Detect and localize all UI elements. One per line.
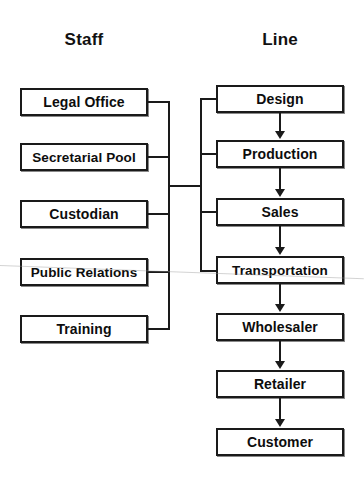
org-chart-diagram: Staff Line Legal Office Secretarial Pool… bbox=[0, 0, 364, 487]
arrow-icon-transportation-wholesaler bbox=[275, 304, 285, 312]
arrow-icon-design-production bbox=[275, 131, 285, 139]
arrow-icon-retailer-customer bbox=[275, 419, 285, 427]
node-wholesaler[interactable]: Wholesaler bbox=[216, 313, 344, 341]
flow-line-sales-transportation bbox=[279, 226, 281, 247]
connector-training-stub bbox=[148, 328, 170, 330]
flow-line-transportation-wholesaler bbox=[279, 284, 281, 305]
node-retailer[interactable]: Retailer bbox=[216, 370, 344, 398]
node-customer[interactable]: Customer bbox=[216, 428, 344, 456]
node-legal-office[interactable]: Legal Office bbox=[20, 88, 148, 116]
node-custodian[interactable]: Custodian bbox=[20, 200, 148, 228]
connector-design-stub bbox=[200, 98, 218, 100]
connector-staff-trunk bbox=[168, 101, 170, 330]
node-design[interactable]: Design bbox=[216, 85, 344, 113]
arrow-icon-sales-transportation bbox=[275, 247, 285, 255]
node-public-relations[interactable]: Public Relations bbox=[20, 258, 148, 286]
flow-line-production-sales bbox=[279, 168, 281, 189]
connector-transportation-stub bbox=[200, 270, 218, 272]
connector-sales-stub bbox=[200, 211, 218, 213]
node-training[interactable]: Training bbox=[20, 315, 148, 343]
flow-line-wholesaler-retailer bbox=[279, 341, 281, 362]
column-header-line: Line bbox=[218, 30, 342, 50]
node-production[interactable]: Production bbox=[216, 140, 344, 168]
connector-secretarial-pool-stub bbox=[148, 156, 170, 158]
arrow-icon-wholesaler-retailer bbox=[275, 361, 285, 369]
connector-legal-office-stub bbox=[148, 101, 170, 103]
connector-staff-line-bridge bbox=[168, 185, 202, 187]
connector-line-trunk bbox=[200, 98, 202, 272]
connector-custodian-stub bbox=[148, 213, 170, 215]
node-transportation[interactable]: Transportation bbox=[216, 256, 344, 284]
node-secretarial-pool[interactable]: Secretarial Pool bbox=[20, 143, 148, 171]
flow-line-design-production bbox=[279, 113, 281, 132]
connector-production-stub bbox=[200, 153, 218, 155]
arrow-icon-production-sales bbox=[275, 189, 285, 197]
node-sales[interactable]: Sales bbox=[216, 198, 344, 226]
connector-public-relations-stub bbox=[148, 271, 170, 273]
column-header-staff: Staff bbox=[22, 30, 146, 50]
flow-line-retailer-customer bbox=[279, 398, 281, 419]
